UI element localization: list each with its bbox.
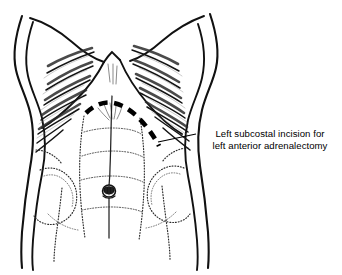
linea-alba-upper	[109, 96, 112, 186]
iliac-crest-right	[162, 186, 170, 260]
external-oblique-right-detail	[151, 173, 180, 205]
left-rib-2	[48, 62, 92, 84]
tendinous-intersection-2	[82, 151, 143, 157]
semilunar-line-right	[139, 118, 144, 240]
external-oblique-left	[34, 168, 77, 225]
oblique-left-upper	[36, 150, 62, 164]
xiphoid-process	[104, 52, 120, 62]
semilunar-line-left	[80, 116, 85, 238]
tendinous-intersection-3	[81, 176, 143, 182]
tendinous-intersection-1	[84, 128, 141, 134]
abdominal-musculature	[34, 103, 190, 262]
oblique-right-upper	[162, 148, 188, 162]
inguinal-right	[146, 212, 176, 228]
tendinous-intersection-4	[82, 207, 142, 212]
leader-line-path	[158, 134, 196, 142]
iliac-crest-left	[54, 188, 62, 262]
incision-dashed-line	[86, 102, 159, 146]
epigastric-fiber-4	[117, 106, 122, 119]
right-pectoral-edge	[130, 16, 204, 61]
torso-outline	[14, 14, 217, 270]
sternum-hatch-3	[116, 66, 117, 84]
external-oblique-left-detail	[44, 175, 73, 207]
left-body-contour	[14, 16, 33, 268]
umbilicus	[103, 185, 116, 198]
right-rib-2	[134, 60, 179, 82]
sternum-hatch-1	[108, 64, 110, 82]
annotation-leader	[158, 134, 196, 142]
inguinal-left	[48, 214, 78, 230]
medical-illustration-figure: Left subcostal incision for left anterio…	[0, 0, 342, 275]
incision-label-line-1: Left subcostal incision for	[200, 128, 340, 140]
left-subcostal-incision	[86, 102, 159, 146]
epigastric-fiber-5	[98, 108, 109, 120]
incision-label-line-2: left anterior adrenalectomy	[200, 140, 340, 152]
incision-label: Left subcostal incision for left anterio…	[200, 128, 340, 152]
epigastric-fiber-3	[114, 104, 116, 119]
external-oblique-right	[147, 166, 190, 223]
